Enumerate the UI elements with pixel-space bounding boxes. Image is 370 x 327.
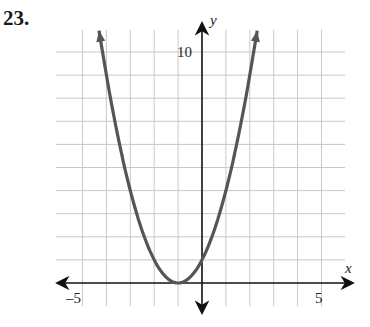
x-tick-5: 5: [315, 290, 323, 306]
y-tick-10: 10: [177, 44, 192, 60]
parabola-graph: y x 10 –5 5: [0, 0, 370, 327]
x-tick-neg5: –5: [65, 290, 81, 306]
x-axis-label: x: [344, 260, 352, 276]
y-axis-label: y: [208, 12, 217, 28]
